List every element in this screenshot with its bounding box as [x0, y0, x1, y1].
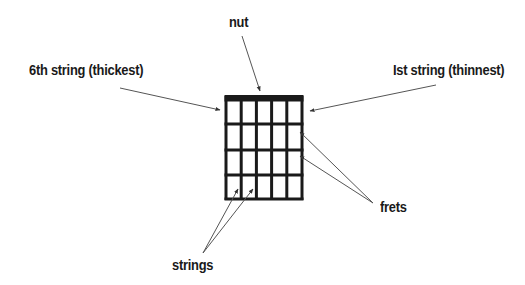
chord-diagram — [0, 0, 525, 285]
sixth-string-arrow — [120, 88, 220, 110]
string-arrow-1 — [203, 189, 238, 253]
sixth-string-label: 6th string (thickest) — [29, 61, 143, 78]
first-string-label: Ist string (thinnest) — [393, 61, 504, 78]
fret-arrow-2 — [300, 156, 373, 203]
nut-label: nut — [229, 13, 248, 30]
first-string-arrow — [310, 85, 436, 111]
arrows — [120, 36, 436, 253]
nut-bar — [225, 95, 304, 102]
frets-label: frets — [380, 198, 407, 215]
strings-label: strings — [172, 256, 213, 273]
nut-arrow — [242, 36, 260, 91]
fretboard-grid — [225, 96, 304, 200]
fret-arrow-1 — [300, 132, 373, 203]
